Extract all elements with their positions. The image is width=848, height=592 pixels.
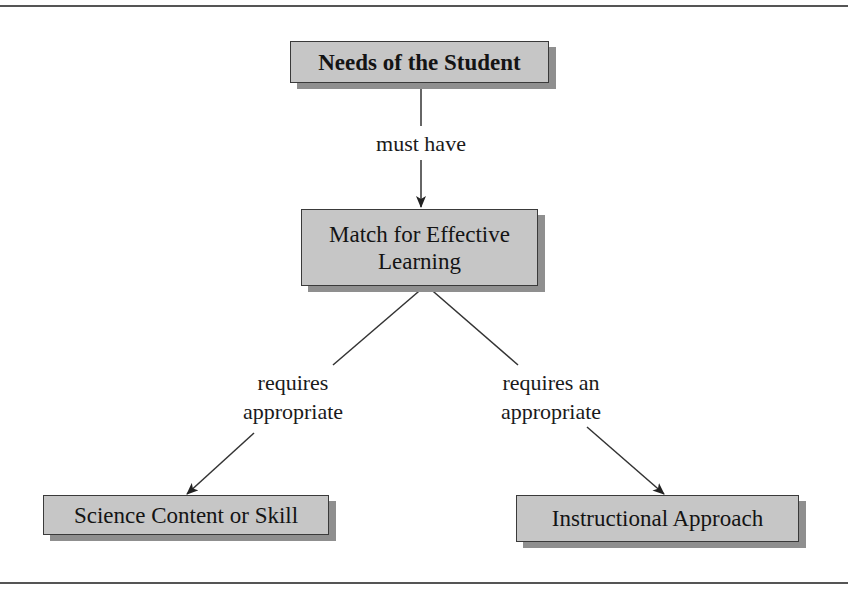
node-science-content-or-skill: Science Content or Skill bbox=[43, 495, 329, 535]
edge-label-line1: requires bbox=[218, 368, 368, 397]
edge-match-content-lower bbox=[187, 433, 254, 494]
node-match-for-effective-learning: Match for Effective Learning bbox=[301, 209, 538, 286]
node-instructional-approach: Instructional Approach bbox=[516, 495, 799, 542]
edge-match-approach-lower bbox=[587, 427, 664, 494]
edge-label-requires-an-appropriate: requires an appropriate bbox=[476, 368, 626, 426]
node-needs-of-the-student: Needs of the Student bbox=[290, 41, 549, 83]
edge-label-line2: appropriate bbox=[218, 397, 368, 426]
node-match-label-line1: Match for Effective bbox=[329, 221, 510, 248]
edge-match-approach-upper bbox=[427, 286, 518, 365]
edge-label-line1: requires an bbox=[476, 368, 626, 397]
edge-label-line2: appropriate bbox=[476, 397, 626, 426]
node-content-label: Science Content or Skill bbox=[74, 502, 298, 529]
edge-label-requires-appropriate: requires appropriate bbox=[218, 368, 368, 426]
node-approach-label: Instructional Approach bbox=[552, 505, 763, 532]
edge-label-must-have: must have bbox=[350, 129, 492, 158]
node-match-label-line2: Learning bbox=[378, 248, 461, 275]
node-needs-label: Needs of the Student bbox=[318, 49, 521, 76]
edge-match-content-upper bbox=[333, 286, 425, 365]
